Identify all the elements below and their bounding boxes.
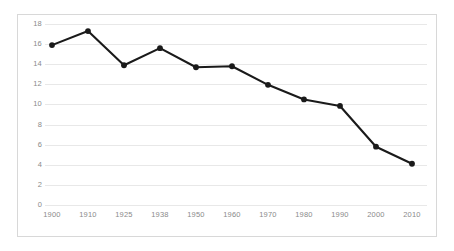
data-point-marker	[409, 161, 415, 167]
data-point-marker	[337, 103, 343, 109]
data-series-group	[0, 0, 454, 251]
chart-plot-area: 024681012141618 190019101925193819501960…	[0, 0, 454, 251]
data-point-marker	[229, 63, 235, 69]
data-point-marker	[193, 64, 199, 70]
data-point-marker	[121, 62, 127, 68]
data-point-marker	[265, 82, 271, 88]
data-point-marker	[157, 45, 163, 51]
data-point-marker	[85, 28, 91, 34]
data-point-marker	[49, 42, 55, 48]
data-markers-group	[49, 28, 415, 167]
data-line-series-1	[52, 31, 412, 164]
data-point-marker	[373, 144, 379, 150]
data-point-marker	[301, 97, 307, 103]
